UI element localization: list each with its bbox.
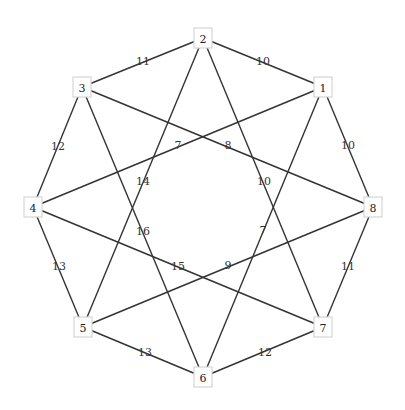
edge-labels-layer: 1011121313121110781410167159 (51, 55, 355, 359)
edge-weight-label: 7 (260, 224, 267, 237)
node-label: 1 (320, 82, 327, 95)
node-label: 7 (320, 322, 327, 335)
node-label: 8 (370, 202, 377, 215)
edge-weight-label: 10 (256, 55, 270, 68)
node-8: 8 (364, 197, 382, 217)
node-4: 4 (24, 197, 42, 217)
edge-weight-label: 13 (52, 260, 66, 273)
edge-weight-label: 15 (171, 260, 185, 273)
node-6: 6 (194, 367, 212, 387)
node-label: 6 (200, 372, 207, 385)
node-label: 2 (200, 33, 207, 46)
edge-weight-label: 9 (225, 259, 232, 272)
weighted-graph: 1011121313121110781410167159 12345678 (0, 0, 405, 410)
edge-weight-label: 11 (341, 260, 355, 273)
node-5: 5 (74, 317, 92, 337)
node-label: 3 (79, 82, 86, 95)
edge-weight-label: 10 (257, 175, 271, 188)
node-label: 5 (80, 322, 87, 335)
nodes-layer: 12345678 (24, 28, 382, 387)
edge-weight-label: 8 (225, 139, 232, 152)
node-3: 3 (73, 77, 91, 97)
edge-weight-label: 12 (258, 346, 272, 359)
edge-weight-label: 12 (51, 140, 65, 153)
edge-weight-label: 7 (175, 139, 182, 152)
node-2: 2 (194, 28, 212, 48)
edge-weight-label: 10 (341, 139, 355, 152)
node-label: 4 (30, 202, 37, 215)
edge-weight-label: 16 (136, 225, 150, 238)
node-7: 7 (314, 317, 332, 337)
edge-weight-label: 13 (138, 346, 152, 359)
edge-weight-label: 11 (136, 55, 150, 68)
node-1: 1 (314, 77, 332, 97)
edge-weight-label: 14 (136, 175, 150, 188)
